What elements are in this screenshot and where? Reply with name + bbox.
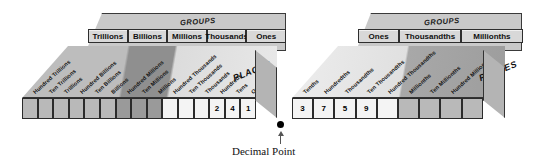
- group-cell: Thousands: [207, 29, 247, 43]
- digit-cell[interactable]: 9: [356, 98, 377, 119]
- fraction-group-headers: OnesThousandthsMillionths: [358, 29, 523, 43]
- digit-cell[interactable]: 5: [334, 98, 355, 119]
- group-cell: Billions: [128, 29, 168, 43]
- digit-cell[interactable]: [53, 98, 69, 119]
- group-cell: Thousandths: [399, 29, 461, 43]
- digit-cell[interactable]: [462, 98, 483, 119]
- group-cell: Trillions: [88, 29, 128, 43]
- digit-cell[interactable]: [69, 98, 85, 119]
- decimal-arrow-stem: [280, 135, 282, 144]
- digit-cell[interactable]: [178, 98, 194, 119]
- digit-cell[interactable]: [377, 98, 398, 119]
- place-value-chart: GROUPS TrillionsBillionsMillionsThousand…: [0, 0, 542, 167]
- group-cell: Millions: [167, 29, 207, 43]
- digit-cell[interactable]: 1: [240, 98, 256, 119]
- group-cell: Millionths: [461, 29, 523, 43]
- fraction-block: GROUPS OnesThousandthsMillionths TenthsH…: [292, 0, 542, 130]
- whole-digit-row: 241: [22, 98, 256, 119]
- digit-cell[interactable]: 4: [225, 98, 241, 119]
- digit-cell[interactable]: 3: [292, 98, 313, 119]
- digit-cell[interactable]: [162, 98, 178, 119]
- place-label: Ten Thousandths: [366, 59, 405, 95]
- digit-cell[interactable]: [131, 98, 147, 119]
- whole-number-block: GROUPS TrillionsBillionsMillionsThousand…: [0, 0, 300, 130]
- digit-cell[interactable]: 7: [313, 98, 334, 119]
- place-label: Tenths: [302, 78, 320, 95]
- digit-cell[interactable]: [116, 98, 132, 119]
- digit-cell[interactable]: [194, 98, 210, 119]
- digit-cell[interactable]: [100, 98, 116, 119]
- decimal-point-dot: [277, 121, 284, 128]
- digit-cell[interactable]: [398, 98, 419, 119]
- digit-cell[interactable]: [419, 98, 440, 119]
- digit-cell[interactable]: [84, 98, 100, 119]
- digit-cell[interactable]: 2: [209, 98, 225, 119]
- group-cell: Ones: [246, 29, 286, 43]
- group-cell: Ones: [358, 29, 399, 43]
- fraction-places-face: TenthsHundredthsThousandthsTen Thousandt…: [292, 46, 505, 98]
- digit-cell[interactable]: [147, 98, 163, 119]
- digit-cell[interactable]: [440, 98, 461, 119]
- fraction-digit-row: 3759: [292, 98, 483, 119]
- decimal-point-caption: Decimal Point: [232, 145, 295, 157]
- digit-cell[interactable]: [22, 98, 38, 119]
- digit-cell[interactable]: [38, 98, 54, 119]
- whole-group-headers: TrillionsBillionsMillionsThousandsOnes: [88, 29, 286, 43]
- place-label: Tens: [235, 82, 249, 95]
